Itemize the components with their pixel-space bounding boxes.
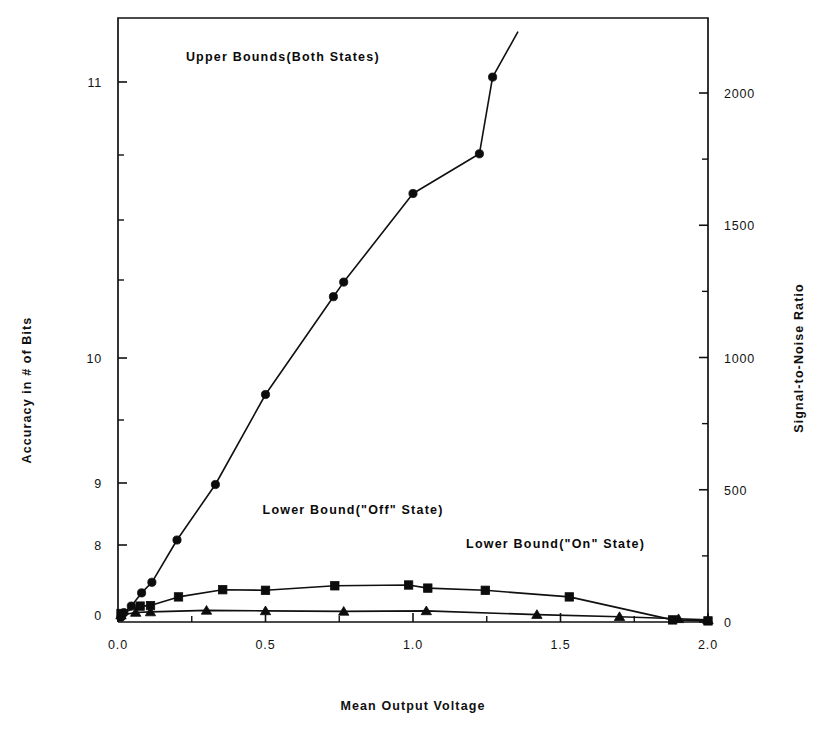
chart-figure: 0.00.51.01.52.0 1110980 0500100015002000… [0,0,826,734]
data-point-square [261,586,269,594]
data-point-square [174,593,182,601]
data-point-square [404,581,412,589]
x-axis-title: Mean Output Voltage [341,699,486,713]
right-tick-label: 1000 [724,352,755,366]
data-point-square [219,586,227,594]
data-point-circle [489,73,497,81]
data-point-circle [211,480,219,488]
data-point-circle [148,578,156,586]
y-axis-title: Accuracy in # of Bits [20,317,34,464]
x-tick-label: 1.0 [403,638,423,652]
annotation-label: Lower Bound("On" State) [466,537,645,551]
x-tick-label: 1.5 [551,638,571,652]
chart-background [0,0,826,734]
data-point-circle [340,278,348,286]
annotation-label: Lower Bound("Off" State) [263,503,444,517]
x-tick-label: 2.0 [698,638,718,652]
data-point-circle [475,150,483,158]
left-tick-label: 11 [87,76,102,90]
data-point-circle [409,189,417,197]
left-tick-label: 10 [86,352,102,366]
right-tick-label: 2000 [724,87,755,101]
right-tick-label: 500 [724,484,747,498]
data-point-square [565,593,573,601]
x-tick-label: 0.5 [256,638,276,652]
data-point-circle [138,589,146,597]
x-tick-label: 0.0 [108,638,128,652]
data-point-circle [173,536,181,544]
right-tick-label: 0 [724,616,732,630]
accuracy-vs-voltage-chart: 0.00.51.01.52.0 1110980 0500100015002000… [0,0,826,734]
data-point-circle [329,293,337,301]
left-tick-label: 0 [94,609,102,623]
right-tick-label: 1500 [724,219,755,233]
data-point-circle [261,390,269,398]
data-point-square [136,602,144,610]
annotation-label: Upper Bounds(Both States) [186,50,380,64]
left-tick-label: 8 [94,539,102,553]
left-tick-label: 9 [94,477,102,491]
data-point-square [424,584,432,592]
data-point-square [331,582,339,590]
data-point-square [481,586,489,594]
secondary-y-axis-title: Signal-to-Noise Ratio [792,283,806,433]
